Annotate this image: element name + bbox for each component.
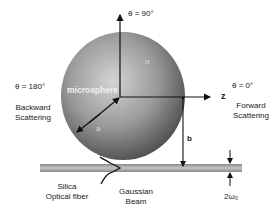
- microsphere-label: microsphere: [67, 85, 118, 95]
- z-axis-label: z: [221, 91, 226, 101]
- forward-scattering-label: Forward Scattering: [228, 101, 274, 121]
- forward-label-line2: Scattering: [228, 111, 274, 121]
- backward-label-line1: Backward: [12, 103, 54, 113]
- angle-0-label: θ = 0°: [232, 81, 253, 91]
- microsphere: [61, 32, 185, 160]
- beam-label-line2: Beam: [114, 197, 158, 207]
- backward-scattering-label: Backward Scattering: [12, 103, 54, 123]
- gaussian-beam-label: Gaussian Beam: [114, 187, 158, 207]
- backward-label-line2: Scattering: [12, 113, 54, 123]
- waist-label: 2ω₀: [224, 192, 238, 202]
- angle-180-label: θ = 180°: [15, 82, 45, 92]
- silica-fiber-label: Silica Optical fiber: [40, 182, 94, 202]
- distance-b-label: b: [187, 134, 192, 144]
- optical-fiber: [40, 164, 242, 172]
- beam-label-line1: Gaussian: [114, 187, 158, 197]
- forward-label-line1: Forward: [228, 101, 274, 111]
- radius-label: a: [96, 124, 100, 134]
- microsphere-fiber-diagram: θ = 90° θ = 180° Backward Scattering θ =…: [0, 0, 278, 211]
- fiber-label-line2: Optical fiber: [40, 192, 94, 202]
- angle-90-label: θ = 90°: [128, 9, 154, 19]
- refractive-index-label: n: [145, 57, 149, 67]
- fiber-label-line1: Silica: [40, 182, 94, 192]
